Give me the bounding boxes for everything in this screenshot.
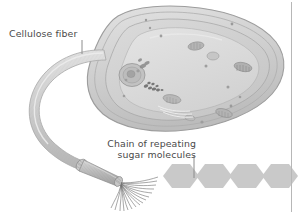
hexagon-glucose-4 xyxy=(262,164,298,188)
sugar-molecule-hexagons xyxy=(163,164,298,188)
hexagon-glucose-3 xyxy=(229,164,265,188)
label-cellulose-fiber: Cellulose fiber xyxy=(9,28,77,39)
fiber-magnified-segment xyxy=(79,160,119,186)
hexagon-glucose-2 xyxy=(196,164,232,188)
label-sugar-chain-line2: sugar molecules xyxy=(118,149,196,160)
label-sugar-molecule-chain: Chain of repeating sugar molecules xyxy=(86,138,196,161)
figure-plant-cell-cellulose: Cellulose fiber Chain of repeating sugar… xyxy=(0,0,305,214)
right-margin-rule xyxy=(291,2,292,212)
label-sugar-chain-line1: Chain of repeating xyxy=(107,138,196,149)
plant-cell-group xyxy=(87,6,284,131)
mitochondrion-1 xyxy=(207,52,219,60)
